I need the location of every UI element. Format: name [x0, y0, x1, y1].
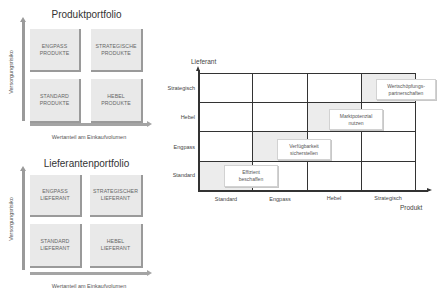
x-axis-label: Wertanteil am Einkaufvolumen: [30, 283, 148, 289]
y-axis-arrow: [22, 21, 25, 121]
y-axis-arrow: [198, 70, 200, 191]
y-label-strategisch: Strategisch: [161, 85, 195, 91]
x-label-engpass: Engpass: [259, 196, 301, 202]
y-label-standard: Standard: [161, 172, 195, 178]
quadrant-hebel-lieferant: HEBEL LIEFERANT: [90, 224, 143, 268]
x-label-hebel: Hebel: [313, 195, 355, 201]
grid-line: [361, 73, 362, 190]
x-label-strategisch: Strategisch: [367, 195, 409, 201]
y-axis-arrow: [22, 170, 25, 270]
strategy-wertschoepfungspartnerschaften: Wertschöpfungs- partnerschaften: [376, 79, 436, 100]
quadrant-engpass-produkte: ENGPASS PRODUKTE: [30, 29, 81, 72]
strategy-verfuegbarkeit-sicherstellen: Verfügbarkeit sicherstellen: [277, 139, 331, 160]
x-axis-label: Wertanteil am Einkaufvolumen: [30, 134, 148, 140]
x-axis-arrow: [30, 272, 148, 275]
quadrant-strategische-produkte: STRATEGISCHE PRODUKTE: [91, 29, 143, 72]
strategy-marktpotenzial-nutzen: Marktpotenzial nutzen: [329, 109, 383, 130]
quadrant-engpass-lieferant: ENGPASS LIEFERANT: [30, 175, 82, 217]
x-label-standard: Standard: [205, 196, 247, 202]
quadrant-hebel-produkte: HEBEL PRODUKTE: [91, 79, 143, 123]
y-label-hebel: Hebel: [161, 114, 195, 120]
y-axis-title: Lieferant: [191, 58, 216, 65]
y-label-engpass: Engpass: [161, 144, 195, 150]
x-axis-title: Produkt: [400, 204, 422, 211]
quadrant-strategischer-lieferant: STRATEGISCHER LIEFERANT: [90, 175, 143, 217]
x-axis-arrow: [198, 190, 428, 192]
x-axis-arrow: [30, 123, 148, 126]
quadrant-standard-produkte: STANDARD PRODUKTE: [30, 79, 81, 123]
produktportfolio-title: Produktportfolio: [30, 9, 143, 20]
lieferantenportfolio-title: Lieferantenportfolio: [30, 158, 143, 169]
grid-line: [307, 73, 308, 190]
y-axis-label: Versorgungsrisiko: [8, 194, 14, 244]
quadrant-standard-lieferant: STANDARD LIEFERANT: [30, 224, 82, 268]
y-axis-label: Versorgungsrisiko: [8, 47, 14, 97]
strategy-effizient-beschaffen: Effizient beschaffen: [224, 165, 278, 187]
